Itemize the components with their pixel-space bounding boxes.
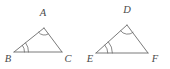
angle-arc-B-2: [26, 43, 29, 52]
vertex-label-B: B: [5, 53, 12, 64]
vertex-label-A: A: [39, 7, 47, 18]
side-DE: [96, 25, 127, 53]
angle-arc-A-1: [39, 32, 49, 35]
vertex-label-E: E: [86, 53, 94, 64]
side-AB: [14, 28, 44, 52]
vertex-label-F: F: [151, 53, 159, 64]
side-FD: [127, 25, 148, 53]
vertex-label-C: C: [64, 53, 72, 64]
similar-triangles-diagram: A B C D E F: [0, 0, 170, 69]
side-CA: [44, 28, 62, 52]
triangle-ABC: A B C: [5, 7, 73, 64]
vertex-label-D: D: [122, 4, 131, 15]
geometry-figure: A B C D E F: [0, 0, 170, 69]
triangle-DEF: D E F: [86, 4, 159, 64]
angle-arc-D-1: [121, 31, 133, 35]
angle-arc-E-2: [108, 42, 112, 53]
angle-arc-B-1: [22, 45, 24, 52]
angle-arc-E-1: [105, 45, 108, 53]
